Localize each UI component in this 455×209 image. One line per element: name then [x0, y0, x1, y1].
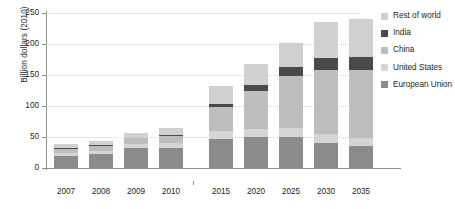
y-tick-mark — [42, 44, 46, 45]
bar-segment — [54, 156, 78, 168]
y-tick-label: 50 — [30, 133, 39, 141]
bar-segment — [209, 131, 233, 138]
y-tick-label: 0 — [34, 164, 39, 172]
y-tick-label: 150 — [25, 71, 39, 79]
bar-segment — [279, 67, 303, 76]
bar-segment — [279, 43, 303, 67]
y-tick-mark — [42, 168, 46, 169]
bar-segment — [314, 70, 338, 134]
stacked-bar-chart: Billion dollars (2010) 05010015020025020… — [0, 0, 455, 209]
bar-segment — [244, 64, 268, 85]
bar-2008[interactable] — [89, 141, 113, 168]
x-tick-label-2025: 2025 — [279, 188, 303, 196]
bar-2009[interactable] — [124, 133, 148, 168]
legend-item[interactable]: India — [381, 29, 452, 37]
bar-segment — [159, 148, 183, 168]
y-tick-label: 200 — [25, 40, 39, 48]
bar-segment — [349, 138, 373, 147]
bar-segment — [159, 136, 183, 143]
legend-item[interactable]: Rest of world — [381, 12, 452, 20]
y-tick-mark — [42, 75, 46, 76]
legend-swatch-icon — [381, 30, 388, 37]
bar-segment — [349, 19, 373, 57]
x-tick-label-2007: 2007 — [54, 188, 78, 196]
legend-item[interactable]: European Union — [381, 81, 452, 89]
y-tick-label: 250 — [25, 9, 39, 17]
bar-segment — [244, 91, 268, 129]
gridline — [46, 137, 360, 138]
legend-swatch-icon — [381, 47, 388, 54]
bar-segment — [209, 86, 233, 105]
legend-label: China — [393, 46, 414, 54]
bar-segment — [244, 129, 268, 137]
gridline — [46, 44, 360, 45]
legend-label: United States — [393, 64, 442, 72]
y-tick-label: 100 — [25, 102, 39, 110]
bar-segment — [209, 139, 233, 168]
y-tick-mark — [42, 13, 46, 14]
legend-swatch-icon — [381, 81, 388, 88]
bar-2010[interactable] — [159, 128, 183, 168]
bar-segment — [124, 148, 148, 168]
bar-segment — [314, 22, 338, 58]
x-tick-label-2008: 2008 — [89, 188, 113, 196]
legend-swatch-icon — [381, 13, 388, 20]
bar-2030[interactable] — [314, 22, 338, 168]
x-tick-label-2030: 2030 — [314, 188, 338, 196]
bar-segment — [314, 143, 338, 168]
x-tick-label-2035: 2035 — [349, 188, 373, 196]
gridline — [46, 106, 360, 107]
bar-2015[interactable] — [209, 86, 233, 168]
legend-label: Rest of world — [393, 12, 441, 20]
bar-segment — [159, 128, 183, 135]
x-tick-label-2020: 2020 — [244, 188, 268, 196]
bar-segment — [279, 137, 303, 168]
gridline — [46, 75, 360, 76]
bar-segment — [349, 70, 373, 138]
bar-segment — [279, 76, 303, 129]
legend-item[interactable]: United States — [381, 64, 452, 72]
legend-label: India — [393, 29, 411, 37]
legend-swatch-icon — [381, 64, 388, 71]
bar-segment — [349, 57, 373, 70]
x-tick-label-2009: 2009 — [124, 188, 148, 196]
bar-segment — [209, 107, 233, 131]
bar-segment — [89, 154, 113, 168]
bar-2007[interactable] — [54, 144, 78, 168]
x-axis-break-tick — [193, 181, 194, 185]
chart-legend: Rest of worldIndiaChinaUnited StatesEuro… — [381, 12, 452, 89]
plot-area: 0501001502002502007200820092010201520202… — [46, 13, 360, 168]
legend-item[interactable]: China — [381, 46, 452, 54]
bar-2025[interactable] — [279, 43, 303, 168]
x-tick-label-2015: 2015 — [209, 188, 233, 196]
bar-segment — [314, 58, 338, 70]
y-tick-mark — [42, 137, 46, 138]
bar-segment — [314, 134, 338, 143]
y-tick-mark — [42, 106, 46, 107]
bar-2020[interactable] — [244, 64, 268, 168]
bar-segment — [244, 137, 268, 168]
x-tick-label-2010: 2010 — [159, 188, 183, 196]
bar-segment — [349, 146, 373, 168]
gridline — [46, 13, 360, 14]
legend-label: European Union — [393, 81, 452, 89]
x-axis-line — [46, 168, 401, 169]
bar-segment — [279, 128, 303, 137]
bar-2035[interactable] — [349, 19, 373, 168]
